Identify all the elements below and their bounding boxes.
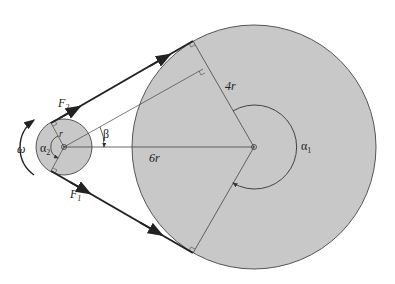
small-pulley-center-dot — [63, 146, 65, 148]
belt-lower-arrow — [140, 223, 162, 236]
large-pulley-center-dot — [253, 146, 255, 148]
f2-label: F2 — [57, 96, 69, 112]
center-distance-label: 6r — [149, 151, 160, 165]
belt-drive-diagram: F2 F1 ω α2 r β 6r 4r α1 — [0, 0, 395, 284]
omega-label: ω — [17, 142, 25, 156]
f1-label: F1 — [69, 187, 81, 203]
small-radius-label: r — [59, 128, 63, 139]
large-radius-label: 4r — [225, 79, 236, 93]
beta-label: β — [103, 127, 109, 141]
